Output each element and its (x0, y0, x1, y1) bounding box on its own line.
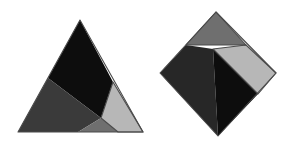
figure-canvas (0, 0, 294, 145)
geometric-figures-illustration (0, 0, 294, 145)
